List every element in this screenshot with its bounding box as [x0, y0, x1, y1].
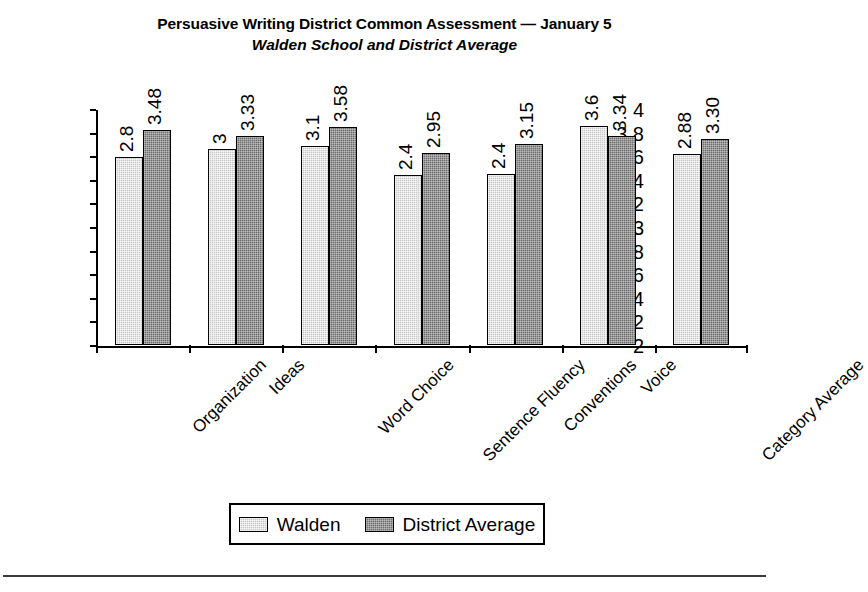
- bar-district[interactable]: [422, 153, 450, 345]
- bar-walden[interactable]: [208, 149, 236, 345]
- chart-title-block: Persuasive Writing District Common Asses…: [0, 14, 769, 55]
- bar-group: 33.33: [189, 109, 282, 345]
- bar-district[interactable]: [143, 130, 171, 345]
- bar-value-label: 3.58: [331, 85, 350, 122]
- legend-item-district: District Average: [365, 515, 536, 534]
- x-axis-category-label: Organization: [189, 356, 270, 437]
- bar-walden[interactable]: [394, 175, 422, 345]
- chart-title: Persuasive Writing District Common Asses…: [0, 14, 769, 34]
- bar-walden[interactable]: [115, 157, 143, 345]
- x-axis-tick: [96, 345, 98, 353]
- x-axis-tick: [655, 345, 657, 353]
- x-axis-tick: [562, 345, 564, 353]
- chart-legend: Walden District Average: [229, 503, 545, 545]
- x-axis-tick: [746, 345, 748, 353]
- x-axis-tick: [189, 345, 191, 353]
- x-axis-category-label: Word Choice: [376, 356, 458, 438]
- legend-swatch-district: [365, 517, 394, 532]
- legend-label-district: District Average: [403, 515, 536, 534]
- bar-value-label: 2.4: [489, 142, 508, 168]
- bar-value-label: 3.30: [703, 97, 722, 134]
- x-axis-line: [96, 346, 748, 348]
- legend-swatch-walden: [239, 517, 268, 532]
- bar-value-label: 3.6: [582, 94, 601, 120]
- x-axis-category-label: Category Average: [759, 356, 868, 465]
- x-axis-tick: [375, 345, 377, 353]
- bar-group: 3.63.34: [562, 109, 655, 345]
- bar-walden[interactable]: [580, 126, 608, 345]
- bar-district[interactable]: [701, 139, 729, 346]
- bar-district[interactable]: [236, 136, 264, 345]
- x-axis-category-label: Voice: [638, 356, 680, 398]
- bar-district[interactable]: [608, 136, 636, 345]
- plot-area: 43.83.63.43.232.82.62.42.222.83.4833.333…: [96, 110, 748, 347]
- bar-walden[interactable]: [487, 174, 515, 345]
- bottom-divider: [3, 575, 766, 577]
- bar-group: 2.83.48: [96, 109, 189, 345]
- bar-value-label: 2.88: [675, 112, 694, 149]
- bar-group: 3.13.58: [282, 109, 375, 345]
- bar-walden[interactable]: [301, 146, 329, 345]
- bar-value-label: 2.95: [424, 111, 443, 148]
- bar-value-label: 3.15: [517, 102, 536, 139]
- x-axis-tick: [469, 345, 471, 353]
- bar-district[interactable]: [329, 127, 357, 345]
- bar-walden[interactable]: [673, 154, 701, 345]
- bar-value-label: 3.33: [238, 94, 257, 131]
- bar-value-label: 2.4: [396, 144, 415, 170]
- bar-value-label: 3.34: [610, 94, 629, 131]
- bar-value-label: 3.1: [303, 114, 322, 140]
- legend-item-walden: Walden: [239, 515, 341, 534]
- bar-value-label: 3.48: [145, 88, 164, 125]
- bar-group: 2.42.95: [375, 109, 468, 345]
- chart-subtitle: Walden School and District Average: [0, 34, 769, 55]
- bar-value-label: 3: [210, 134, 229, 145]
- legend-label-walden: Walden: [277, 515, 341, 534]
- x-axis-category-label: Ideas: [266, 356, 308, 398]
- bar-value-label: 2.8: [117, 126, 136, 152]
- bar-district[interactable]: [515, 144, 543, 345]
- x-axis-tick: [282, 345, 284, 353]
- bar-group: 2.43.15: [469, 109, 562, 345]
- bar-group: 2.883.30: [655, 109, 748, 345]
